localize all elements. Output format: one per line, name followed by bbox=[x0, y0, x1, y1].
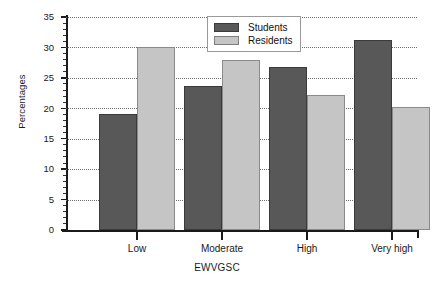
bar-students-moderate bbox=[184, 86, 222, 230]
y-tick-minor bbox=[63, 114, 66, 115]
y-tick: 30 bbox=[61, 47, 66, 48]
y-tick-minor bbox=[63, 71, 66, 72]
x-axis-end-tick bbox=[417, 230, 419, 238]
bar-students-very-high bbox=[354, 40, 392, 230]
y-tick-minor bbox=[63, 175, 66, 176]
y-tick-minor bbox=[63, 29, 66, 30]
y-tick-label: 10 bbox=[43, 163, 54, 174]
bar-residents-low bbox=[137, 47, 175, 230]
x-axis-label: EWVGSC bbox=[0, 262, 434, 273]
y-tick-label: 0 bbox=[49, 224, 54, 235]
x-tick bbox=[221, 231, 222, 240]
y-tick-label: 20 bbox=[43, 102, 54, 113]
y-tick-minor bbox=[63, 96, 66, 97]
y-tick-minor bbox=[63, 150, 66, 151]
y-tick-minor bbox=[63, 132, 66, 133]
x-tick-label: High bbox=[297, 243, 318, 254]
legend-swatch-residents-icon bbox=[214, 36, 239, 45]
bar-students-high bbox=[269, 67, 307, 230]
y-tick-minor bbox=[63, 181, 66, 182]
y-tick-minor bbox=[63, 193, 66, 194]
legend: Students Residents bbox=[207, 16, 301, 52]
legend-swatch-students-icon bbox=[214, 23, 239, 32]
y-tick-minor bbox=[63, 156, 66, 157]
x-axis-line bbox=[62, 230, 419, 232]
y-tick-minor bbox=[63, 41, 66, 42]
legend-item-students: Students bbox=[214, 21, 292, 34]
bar-residents-moderate bbox=[222, 60, 260, 230]
legend-item-residents: Residents bbox=[214, 34, 292, 47]
y-tick-label: 25 bbox=[43, 72, 54, 83]
y-tick: 20 bbox=[61, 108, 66, 109]
x-tick bbox=[136, 231, 137, 240]
y-tick-label: 30 bbox=[43, 41, 54, 52]
legend-label-students: Students bbox=[248, 22, 287, 33]
x-tick bbox=[306, 231, 307, 240]
y-tick-label: 35 bbox=[43, 11, 54, 22]
y-tick: 35 bbox=[61, 16, 66, 17]
y-tick-minor bbox=[63, 120, 66, 121]
bar-residents-high bbox=[307, 95, 345, 230]
y-tick-label: 5 bbox=[49, 193, 54, 204]
y-tick-label: 15 bbox=[43, 133, 54, 144]
y-tick-minor bbox=[63, 35, 66, 36]
y-tick-minor bbox=[63, 187, 66, 188]
y-tick-minor bbox=[63, 126, 66, 127]
y-tick-minor bbox=[63, 65, 66, 66]
y-tick: 5 bbox=[61, 199, 66, 200]
y-tick: 0 bbox=[61, 229, 66, 230]
y-tick-minor bbox=[63, 217, 66, 218]
x-tick bbox=[391, 231, 392, 240]
legend-label-residents: Residents bbox=[248, 35, 292, 46]
x-tick-label: Very high bbox=[371, 243, 413, 254]
y-tick-minor bbox=[63, 163, 66, 164]
bar-students-low bbox=[99, 114, 137, 230]
y-tick-minor bbox=[63, 223, 66, 224]
y-tick-minor bbox=[63, 102, 66, 103]
y-tick-minor bbox=[63, 90, 66, 91]
y-axis-label: Percentages bbox=[16, 37, 27, 167]
x-tick-label: Low bbox=[128, 243, 146, 254]
y-tick-minor bbox=[63, 83, 66, 84]
y-tick: 15 bbox=[61, 138, 66, 139]
x-tick-label: Moderate bbox=[201, 243, 243, 254]
bar-residents-very-high bbox=[392, 107, 430, 230]
y-tick: 10 bbox=[61, 168, 66, 169]
bar-chart: Percentages EWVGSC 05101520253035 LowMod… bbox=[0, 0, 434, 281]
y-tick-minor bbox=[63, 144, 66, 145]
y-tick-minor bbox=[63, 23, 66, 24]
y-tick-minor bbox=[63, 211, 66, 212]
y-tick-minor bbox=[63, 205, 66, 206]
y-tick: 25 bbox=[61, 77, 66, 78]
y-tick-minor bbox=[63, 53, 66, 54]
y-tick-minor bbox=[63, 59, 66, 60]
